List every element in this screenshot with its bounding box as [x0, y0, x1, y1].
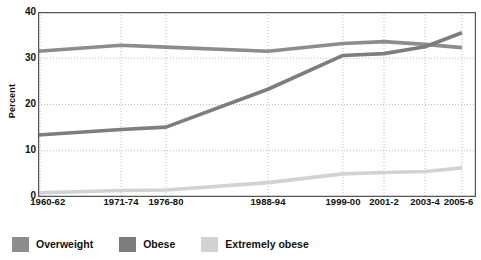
y-tick-10: 10 — [10, 145, 36, 155]
legend-swatch-extremely-obese — [201, 237, 218, 252]
legend-item-overweight[interactable]: Overweight — [12, 237, 93, 252]
y-tick-30: 30 — [10, 53, 36, 63]
legend-label-overweight: Overweight — [36, 238, 93, 250]
x-tick-5: 2001-2 — [369, 196, 399, 207]
chart-legend: Overweight Obese Extremely obese — [0, 228, 481, 260]
legend-swatch-overweight — [12, 237, 29, 252]
x-tick-4: 1999-00 — [326, 196, 361, 207]
obesity-trend-chart: Percent 40 30 20 10 0 1960-62 1971-74 19… — [0, 0, 481, 260]
plot-area — [38, 12, 476, 197]
x-tick-3: 1988-94 — [251, 196, 286, 207]
x-tick-7: 2005-6 — [444, 196, 474, 207]
y-tick-20: 20 — [10, 99, 36, 109]
legend-swatch-obese — [119, 237, 136, 252]
legend-item-extremely-obese[interactable]: Extremely obese — [201, 237, 308, 252]
x-tick-6: 2003-4 — [410, 196, 440, 207]
legend-label-extremely-obese: Extremely obese — [225, 238, 308, 250]
legend-label-obese: Obese — [143, 238, 175, 250]
x-tick-0: 1960-62 — [30, 196, 65, 207]
x-tick-2: 1976-80 — [149, 196, 184, 207]
y-axis-ticks: 40 30 20 10 0 — [0, 0, 36, 210]
plot-svg — [38, 12, 476, 197]
x-tick-1: 1971-74 — [104, 196, 139, 207]
legend-item-obese[interactable]: Obese — [119, 237, 175, 252]
y-tick-40: 40 — [10, 7, 36, 17]
